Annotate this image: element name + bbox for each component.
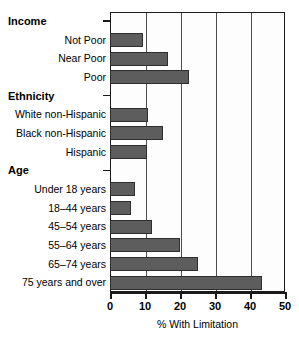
category-label-poor: Poor xyxy=(2,68,106,87)
bar-55-64-years xyxy=(110,238,180,252)
group-label-age: Age xyxy=(8,161,108,180)
bar-18-44-years xyxy=(110,201,131,215)
bar-row: Not Poor xyxy=(0,31,299,50)
x-tick-10 xyxy=(145,292,147,299)
category-label-75-years-and-over: 75 years and over xyxy=(2,273,106,292)
bar-65-74-years xyxy=(110,257,198,271)
group-label-income: Income xyxy=(8,12,108,31)
x-tick-label-30: 30 xyxy=(195,300,235,312)
category-label-65-74-years: 65–74 years xyxy=(2,255,106,274)
bar-row: 75 years and over xyxy=(0,273,299,292)
bar-row: 18–44 years xyxy=(0,199,299,218)
bar-under-18-years xyxy=(110,182,135,196)
group-row: Ethnicity xyxy=(0,87,299,106)
x-axis-line xyxy=(110,292,285,294)
x-tick-label-40: 40 xyxy=(230,300,270,312)
bar-near-poor xyxy=(110,52,168,66)
x-tick-20 xyxy=(180,292,182,299)
bar-row: Hispanic xyxy=(0,143,299,162)
category-label-45-54-years: 45–54 years xyxy=(2,217,106,236)
x-tick-40 xyxy=(250,292,252,299)
x-tick-label-50: 50 xyxy=(265,300,299,312)
x-tick-label-20: 20 xyxy=(160,300,200,312)
horizontal-bar-chart: IncomeNot PoorNear PoorPoorEthnicityWhit… xyxy=(0,0,299,340)
group-row: Income xyxy=(0,12,299,31)
bar-row: Under 18 years xyxy=(0,180,299,199)
bar-row: White non-Hispanic xyxy=(0,105,299,124)
category-label-not-poor: Not Poor xyxy=(2,31,106,50)
bar-row: Black non-Hispanic xyxy=(0,124,299,143)
bar-45-54-years xyxy=(110,220,152,234)
bar-white-non-hispanic xyxy=(110,108,148,122)
x-axis-title: % With Limitation xyxy=(110,318,285,330)
bar-poor xyxy=(110,70,189,84)
category-label-near-poor: Near Poor xyxy=(2,49,106,68)
group-row: Age xyxy=(0,161,299,180)
bar-not-poor xyxy=(110,33,143,47)
x-tick-50 xyxy=(285,292,287,299)
category-label-under-18-years: Under 18 years xyxy=(2,180,106,199)
category-label-black-non-hispanic: Black non-Hispanic xyxy=(2,124,106,143)
bar-black-non-hispanic xyxy=(110,126,163,140)
bar-hispanic xyxy=(110,145,147,159)
bar-row: Near Poor xyxy=(0,49,299,68)
bar-row: Poor xyxy=(0,68,299,87)
x-tick-30 xyxy=(215,292,217,299)
bar-row: 45–54 years xyxy=(0,217,299,236)
bar-row: 55–64 years xyxy=(0,236,299,255)
x-tick-label-0: 0 xyxy=(90,300,130,312)
x-tick-0 xyxy=(110,292,112,299)
category-label-18-44-years: 18–44 years xyxy=(2,199,106,218)
group-tick xyxy=(103,170,110,172)
x-tick-label-10: 10 xyxy=(125,300,165,312)
group-label-ethnicity: Ethnicity xyxy=(8,87,108,106)
group-tick xyxy=(103,20,110,22)
category-label-55-64-years: 55–64 years xyxy=(2,236,106,255)
bar-75-years-and-over xyxy=(110,276,262,290)
category-label-hispanic: Hispanic xyxy=(2,143,106,162)
bar-row: 65–74 years xyxy=(0,255,299,274)
group-tick xyxy=(103,95,110,97)
category-label-white-non-hispanic: White non-Hispanic xyxy=(2,105,106,124)
